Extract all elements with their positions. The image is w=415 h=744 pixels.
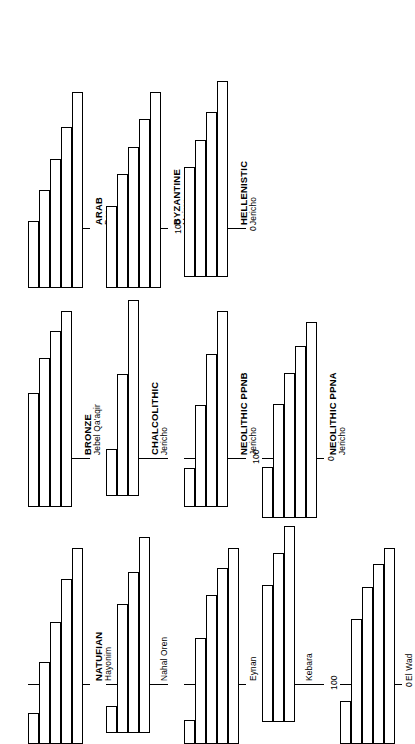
bar — [61, 579, 72, 744]
bar — [195, 638, 206, 744]
panel-site: Jericho — [249, 161, 259, 225]
bar — [61, 127, 72, 288]
bar — [39, 190, 50, 288]
bar — [106, 706, 117, 733]
panel-label-chalcolithic-jericho: CHALCOLITHICJericho — [149, 382, 170, 455]
bar-series — [106, 459, 139, 496]
bar — [217, 311, 228, 507]
bar — [284, 526, 295, 722]
bar — [273, 404, 284, 518]
bar — [262, 585, 273, 722]
panel-label-neolithic-ppna-jericho: NEOLITHIC PPNAJericho — [327, 372, 348, 455]
axis-tick-min: 0 — [405, 682, 414, 687]
panel-site: El Wad — [405, 653, 415, 681]
bar-series — [184, 229, 228, 277]
bar — [195, 405, 206, 507]
panel-label-neolithic-ppnb-jericho: NEOLITHIC PPNBJericho — [238, 372, 259, 455]
chart-panel-neolithic-ppna-jericho: 0100NEOLITHIC PPNAJericho — [262, 241, 324, 459]
bar — [373, 564, 384, 744]
bar — [184, 468, 195, 507]
bar — [184, 720, 195, 744]
panel-label-hellenistic-jericho: HELLENISTICJericho — [238, 161, 259, 225]
bar — [262, 467, 273, 518]
bar — [50, 622, 61, 744]
bar-series — [106, 229, 161, 288]
bar — [184, 167, 195, 277]
bar — [351, 619, 362, 744]
chart-panel-arab-dor: ARABDor — [28, 11, 90, 229]
bar — [217, 81, 228, 277]
bar — [195, 140, 206, 277]
panel-site: Kebara — [305, 653, 315, 681]
bar — [106, 449, 117, 496]
bar — [39, 662, 50, 744]
bar — [340, 701, 351, 744]
panel-site: Jericho — [249, 372, 259, 455]
bar — [217, 568, 228, 744]
axis-tick-min: 0 — [249, 226, 258, 231]
bar — [384, 548, 395, 744]
bar — [206, 595, 217, 744]
panel-label-natufian-nahal-oren: Nahal Oren — [160, 637, 170, 681]
axis-tick-max: 100 — [330, 675, 339, 690]
bar — [117, 604, 128, 733]
bar — [28, 713, 39, 744]
bar — [139, 537, 150, 733]
bar — [284, 373, 295, 518]
bar — [50, 331, 61, 507]
panel-site: Jebel Qa'aqir — [93, 404, 103, 455]
bar — [61, 311, 72, 507]
panel-site: Eynan — [249, 657, 259, 682]
bar-series — [184, 685, 239, 744]
chart-panel-byzantine-meiron: BYZANTINEMeiron — [106, 11, 168, 229]
bar-series — [28, 459, 72, 507]
bar — [295, 346, 306, 518]
bar — [273, 553, 284, 722]
bar-series — [106, 685, 150, 733]
bar-series — [262, 685, 295, 722]
bar — [117, 174, 128, 288]
bar — [72, 92, 83, 288]
bar — [362, 587, 373, 744]
panel-label-natufian-eynan: Eynan — [249, 657, 259, 682]
bar — [206, 354, 217, 507]
bar-series — [184, 459, 228, 507]
axis-tick-min: 0 — [327, 456, 336, 461]
chart-panel-natufian-nahal-oren: Nahal Oren — [106, 467, 168, 685]
bar — [206, 112, 217, 277]
panel-label-natufian-kebara: Kebara — [305, 653, 315, 681]
bar — [306, 322, 317, 518]
bar-series — [262, 459, 317, 518]
bar — [139, 119, 150, 288]
bar-series — [28, 685, 83, 744]
bar — [106, 206, 117, 288]
panel-label-bronze-jebel-qaaqir: BRONZEJebel Qa'aqir — [82, 404, 103, 455]
bar — [28, 393, 39, 507]
panel-label-natufian-el-wad: El Wad — [405, 653, 415, 681]
bar-series — [28, 229, 83, 288]
bar — [50, 159, 61, 288]
bar — [228, 548, 239, 744]
bar — [117, 374, 128, 496]
axis-tick-max: 100 — [174, 219, 183, 234]
bar — [39, 358, 50, 507]
bar — [128, 572, 139, 733]
panel-site: Jericho — [160, 382, 170, 455]
chart-panel-natufian-el-wad: 0100El Wad — [340, 467, 402, 685]
chart-panel-hellenistic-jericho: 0100HELLENISTICJericho — [184, 11, 246, 229]
bar — [128, 147, 139, 288]
bar — [128, 300, 139, 496]
bar — [150, 92, 161, 288]
panel-site: Nahal Oren — [160, 637, 170, 681]
panel-site: Jericho — [338, 372, 348, 455]
chart-column-3: ARABDorBYZANTINEMeiron0100HELLENISTICJer… — [0, 0, 412, 229]
bar — [72, 548, 83, 744]
axis-tick-max: 100 — [252, 449, 261, 464]
bar-series — [340, 685, 395, 744]
bar — [28, 221, 39, 288]
